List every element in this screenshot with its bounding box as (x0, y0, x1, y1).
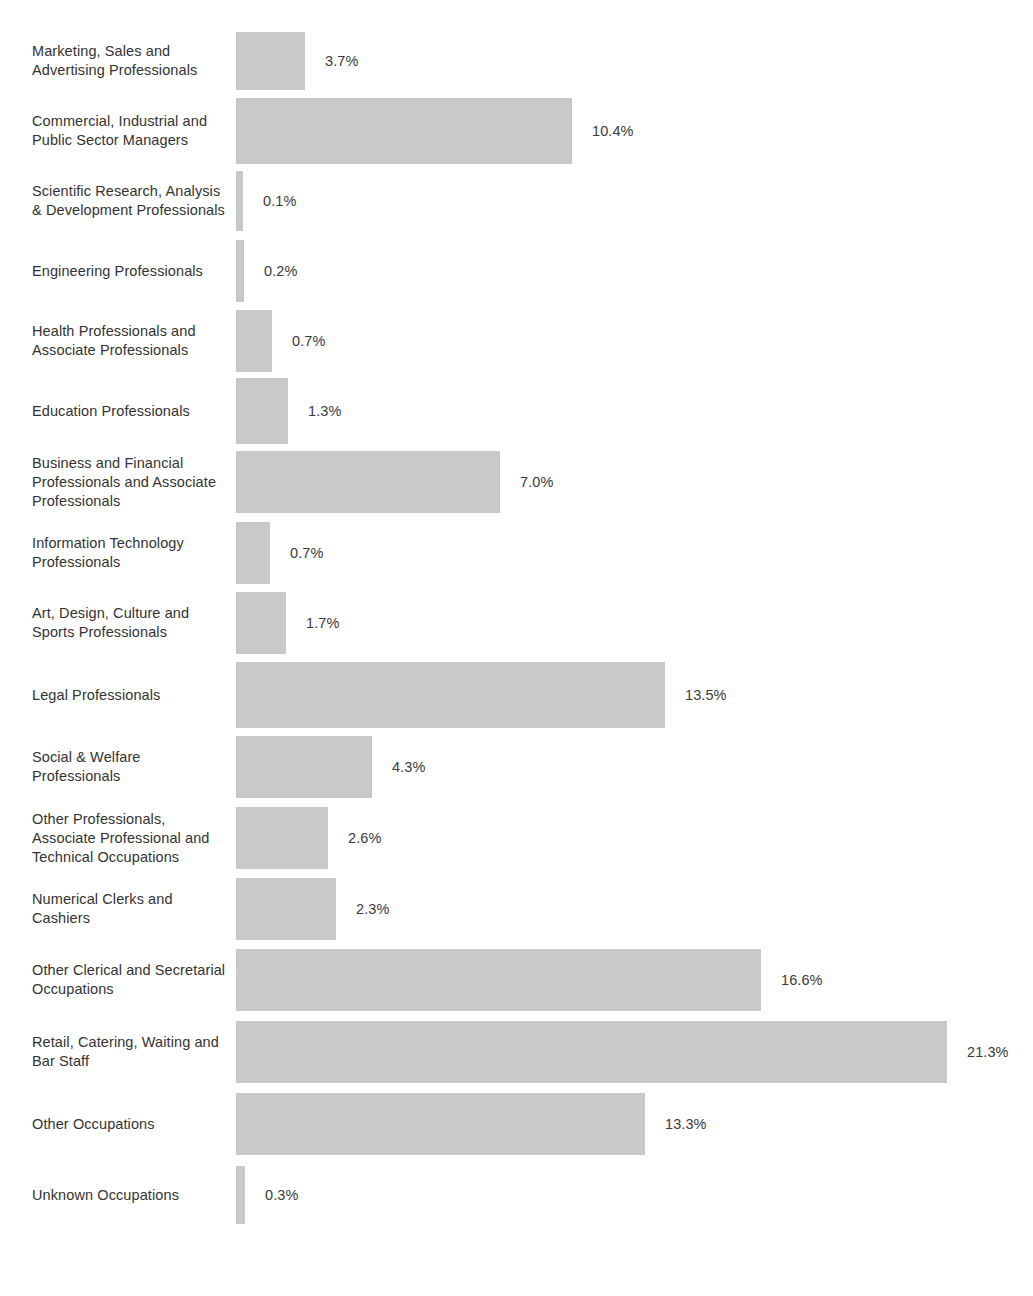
value-label: 2.3% (336, 901, 389, 917)
value-label: 3.7% (305, 53, 358, 69)
bar-area: 3.7% (236, 32, 1033, 90)
value-label: 0.2% (244, 263, 297, 279)
bar (236, 807, 328, 869)
chart-row: Education Professionals1.3% (0, 376, 1033, 446)
value-label: 1.7% (286, 615, 339, 631)
bar-area: 13.5% (236, 662, 1033, 728)
value-label: 0.1% (243, 193, 296, 209)
category-label: Engineering Professionals (0, 262, 236, 281)
category-label: Health Professionals and Associate Profe… (0, 322, 236, 360)
chart-row: Business and Financial Professionals and… (0, 446, 1033, 518)
bar-area: 16.6% (236, 949, 1033, 1011)
value-label: 0.7% (272, 333, 325, 349)
category-label: Marketing, Sales and Advertising Profess… (0, 42, 236, 80)
bar-area: 0.1% (236, 171, 1033, 231)
chart-row: Other Clerical and Secretarial Occupatio… (0, 944, 1033, 1016)
bar-area: 4.3% (236, 736, 1033, 798)
bar (236, 592, 286, 654)
value-label: 21.3% (947, 1044, 1009, 1060)
value-label: 16.6% (761, 972, 823, 988)
chart-row: Retail, Catering, Waiting and Bar Staff2… (0, 1016, 1033, 1088)
bar (236, 878, 336, 940)
category-label: Numerical Clerks and Cashiers (0, 890, 236, 928)
chart-row: Health Professionals and Associate Profe… (0, 306, 1033, 376)
bar (236, 378, 288, 444)
chart-row: Commercial, Industrial and Public Sector… (0, 96, 1033, 166)
chart-row: Numerical Clerks and Cashiers2.3% (0, 874, 1033, 944)
bar-area: 10.4% (236, 98, 1033, 164)
value-label: 13.5% (665, 687, 727, 703)
value-label: 0.7% (270, 545, 323, 561)
bar-area: 1.3% (236, 378, 1033, 444)
category-label: Art, Design, Culture and Sports Professi… (0, 604, 236, 642)
category-label: Social & Welfare Professionals (0, 748, 236, 786)
value-label: 10.4% (572, 123, 634, 139)
bar-area: 1.7% (236, 592, 1033, 654)
bar-area: 13.3% (236, 1093, 1033, 1155)
chart-row: Information Technology Professionals0.7% (0, 518, 1033, 588)
chart-row: Unknown Occupations0.3% (0, 1160, 1033, 1230)
bar (236, 171, 243, 231)
bar (236, 98, 572, 164)
bar (236, 451, 500, 513)
category-label: Scientific Research, Analysis & Developm… (0, 182, 236, 220)
bar-area: 0.2% (236, 240, 1033, 302)
category-label: Education Professionals (0, 402, 236, 421)
value-label: 7.0% (500, 474, 553, 490)
chart-row: Legal Professionals13.5% (0, 658, 1033, 732)
bar-area: 0.7% (236, 310, 1033, 372)
bar (236, 662, 665, 728)
bar-area: 2.3% (236, 878, 1033, 940)
value-label: 4.3% (372, 759, 425, 775)
category-label: Other Occupations (0, 1115, 236, 1134)
bar (236, 522, 270, 584)
chart-row: Marketing, Sales and Advertising Profess… (0, 26, 1033, 96)
category-label: Business and Financial Professionals and… (0, 454, 236, 511)
value-label: 2.6% (328, 830, 381, 846)
value-label: 0.3% (245, 1187, 298, 1203)
bar-area: 2.6% (236, 807, 1033, 869)
occupation-bar-chart: Marketing, Sales and Advertising Profess… (0, 0, 1033, 1296)
category-label: Other Professionals, Associate Professio… (0, 810, 236, 867)
bar (236, 949, 761, 1011)
bar-area: 0.7% (236, 522, 1033, 584)
value-label: 1.3% (288, 403, 341, 419)
bar-area: 0.3% (236, 1166, 1033, 1224)
chart-row: Engineering Professionals0.2% (0, 236, 1033, 306)
chart-row: Art, Design, Culture and Sports Professi… (0, 588, 1033, 658)
chart-row: Scientific Research, Analysis & Developm… (0, 166, 1033, 236)
bar (236, 1021, 947, 1083)
chart-row: Social & Welfare Professionals4.3% (0, 732, 1033, 802)
bar (236, 1166, 245, 1224)
bar (236, 736, 372, 798)
category-label: Other Clerical and Secretarial Occupatio… (0, 961, 236, 999)
bar (236, 32, 305, 90)
category-label: Unknown Occupations (0, 1186, 236, 1205)
category-label: Legal Professionals (0, 686, 236, 705)
bar (236, 1093, 645, 1155)
bar-area: 21.3% (236, 1021, 1033, 1083)
value-label: 13.3% (645, 1116, 707, 1132)
bar (236, 310, 272, 372)
bar-area: 7.0% (236, 451, 1033, 513)
category-label: Commercial, Industrial and Public Sector… (0, 112, 236, 150)
category-label: Information Technology Professionals (0, 534, 236, 572)
category-label: Retail, Catering, Waiting and Bar Staff (0, 1033, 236, 1071)
bar (236, 240, 244, 302)
chart-row: Other Professionals, Associate Professio… (0, 802, 1033, 874)
chart-row: Other Occupations13.3% (0, 1088, 1033, 1160)
